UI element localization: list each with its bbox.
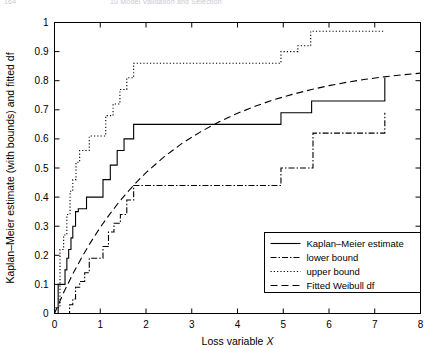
y-tick-label: 0.1 [35, 279, 49, 290]
x-axis-label: Loss variable X [202, 335, 275, 347]
kaplan-meier-chart: 012345678 00.10.20.30.40.50.60.70.80.91 … [0, 0, 432, 348]
y-tick-label: 0.6 [35, 133, 49, 144]
legend-label-1[interactable]: Kaplan–Meier estimate [307, 238, 404, 249]
x-tick-label: 4 [235, 319, 241, 330]
y-tick-label: 1 [43, 17, 49, 28]
x-tick-label: 1 [97, 319, 103, 330]
x-tick-label: 7 [372, 319, 378, 330]
y-axis-label: Kaplan–Meier estimate (with bounds) and … [4, 52, 16, 283]
x-tick-label: 2 [143, 319, 149, 330]
legend-label-2[interactable]: lower bound [307, 252, 359, 263]
x-tick-label: 5 [280, 319, 286, 330]
x-tick-label: 0 [52, 319, 58, 330]
y-tick-label: 0.8 [35, 75, 49, 86]
y-tick-label: 0.3 [35, 221, 49, 232]
legend-label-3[interactable]: upper bound [307, 266, 360, 277]
x-tick-label: 6 [326, 319, 332, 330]
y-tick-label: 0.5 [35, 163, 49, 174]
y-tick-label: 0.2 [35, 250, 49, 261]
x-tick-label: 8 [418, 319, 424, 330]
y-axis-tick-labels: 00.10.20.30.40.50.60.70.80.91 [35, 17, 49, 319]
chart-legend[interactable]: Kaplan–Meier estimatelower boundupper bo… [265, 233, 421, 293]
y-tick-label: 0 [43, 308, 49, 319]
y-tick-label: 0.4 [35, 192, 49, 203]
y-tick-label: 0.7 [35, 104, 49, 115]
legend-label-4[interactable]: Fitted Weibull df [307, 280, 375, 291]
x-axis-tick-labels: 012345678 [52, 319, 424, 330]
chart-figure: 012345678 00.10.20.30.40.50.60.70.80.91 … [0, 0, 432, 348]
y-tick-label: 0.9 [35, 46, 49, 57]
x-tick-label: 3 [189, 319, 195, 330]
